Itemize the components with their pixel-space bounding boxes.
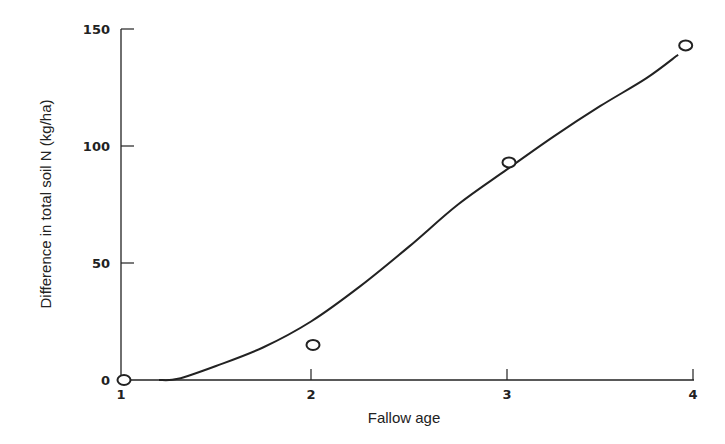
y-tick-label: 100 xyxy=(83,139,110,154)
y-axis-label: Difference in total soil N (kg/ha) xyxy=(37,100,54,309)
x-tick-label: 4 xyxy=(688,387,697,402)
x-tick-label: 3 xyxy=(502,387,511,402)
y-tick-label: 50 xyxy=(92,256,110,271)
x-ticks: 1234 xyxy=(116,369,697,402)
data-point-marker xyxy=(679,40,692,50)
y-ticks: 050100150 xyxy=(83,22,134,388)
chart: 050100150 1234 Fallow age Difference in … xyxy=(0,0,725,444)
x-tick-label: 1 xyxy=(116,387,125,402)
data-point-marker xyxy=(307,340,320,350)
data-point-marker xyxy=(503,157,516,167)
y-tick-label: 0 xyxy=(101,373,110,388)
x-axis-label: Fallow age xyxy=(368,409,441,426)
x-tick-label: 2 xyxy=(306,387,315,402)
data-points xyxy=(118,40,693,385)
data-point-marker xyxy=(118,375,131,385)
axes xyxy=(121,29,694,380)
y-tick-label: 150 xyxy=(83,22,110,37)
fitted-curve xyxy=(159,55,678,380)
